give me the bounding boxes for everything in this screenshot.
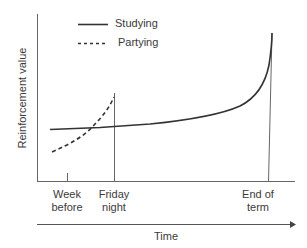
legend-studying-label: Studying bbox=[115, 17, 158, 29]
tick-label-week-before: Week before bbox=[47, 188, 87, 214]
tick-label-friday-night: Friday night bbox=[94, 188, 134, 214]
tick-label-line2: before bbox=[47, 201, 87, 214]
tick-label-line2: term bbox=[238, 201, 278, 214]
tick-label-line1: Friday bbox=[94, 188, 134, 201]
partying-line bbox=[52, 97, 114, 152]
studying-line bbox=[50, 33, 272, 130]
y-axis-label: Reinforcement value bbox=[16, 43, 28, 153]
x-axis-label: Time bbox=[146, 230, 186, 243]
tick-label-line1: Week bbox=[47, 188, 87, 201]
legend-partying-label: Partying bbox=[118, 36, 158, 48]
tick-label-line1: End of bbox=[238, 188, 278, 201]
tick-label-line2: night bbox=[94, 201, 134, 214]
tick-label-end-of-term: End of term bbox=[238, 188, 278, 214]
time-arrow-head-icon bbox=[290, 221, 296, 228]
